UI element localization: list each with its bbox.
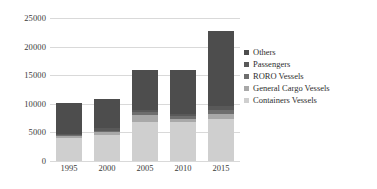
bar-segment	[56, 138, 82, 161]
legend-item-label: RORO Vessels	[253, 72, 304, 81]
legend-swatch-icon	[244, 74, 249, 79]
bar-segment	[208, 119, 234, 161]
x-tick-label-1995: 1995	[56, 163, 82, 173]
y-tick-label-10000: 10000	[2, 99, 46, 109]
y-tick-label-20000: 20000	[2, 42, 46, 52]
x-tick-label-2010: 2010	[170, 163, 196, 173]
x-tick-label-2005: 2005	[132, 163, 158, 173]
legend-item[interactable]: Passengers	[244, 60, 330, 69]
legend-swatch-icon	[244, 98, 249, 103]
bar-segment	[56, 103, 82, 134]
y-tick-label-0: 0	[2, 156, 46, 166]
bar-segment	[94, 99, 120, 129]
legend-swatch-icon	[244, 62, 249, 67]
bar-group	[50, 18, 240, 161]
legend-item[interactable]: RORO Vessels	[244, 72, 330, 81]
legend-item[interactable]: Others	[244, 48, 330, 57]
bar-column-2005[interactable]	[132, 18, 158, 161]
bar-segment	[132, 70, 158, 110]
legend-item-label: General Cargo Vessels	[253, 84, 330, 93]
legend-swatch-icon	[244, 86, 249, 91]
bar-column-2010[interactable]	[170, 18, 196, 161]
bar-segment	[132, 115, 158, 122]
stacked-bar-chart: 0500010000150002000025000 19952000200520…	[0, 0, 377, 189]
bar-segment	[170, 122, 196, 161]
legend-item-label: Containers Vessels	[253, 96, 317, 105]
bar-column-2000[interactable]	[94, 18, 120, 161]
legend-item[interactable]: General Cargo Vessels	[244, 84, 330, 93]
bar-segment	[170, 70, 196, 113]
legend-item[interactable]: Containers Vessels	[244, 96, 330, 105]
legend-item-label: Passengers	[253, 60, 290, 69]
bar-column-1995[interactable]	[56, 18, 82, 161]
legend-swatch-icon	[244, 50, 249, 55]
gridline-0	[50, 161, 240, 162]
legend-item-label: Others	[253, 48, 276, 57]
y-tick-label-15000: 15000	[2, 70, 46, 80]
y-tick-label-5000: 5000	[2, 127, 46, 137]
plot-area	[50, 18, 240, 161]
x-tick-label-2000: 2000	[94, 163, 120, 173]
bar-segment	[132, 122, 158, 161]
bar-segment	[94, 135, 120, 161]
bar-segment	[208, 31, 234, 107]
bar-column-2015[interactable]	[208, 18, 234, 161]
chart-legend: OthersPassengersRORO VesselsGeneral Carg…	[244, 48, 330, 105]
x-tick-label-2015: 2015	[208, 163, 234, 173]
y-tick-label-25000: 25000	[2, 13, 46, 23]
x-axis-tick-labels: 19952000200520102015	[50, 163, 240, 173]
